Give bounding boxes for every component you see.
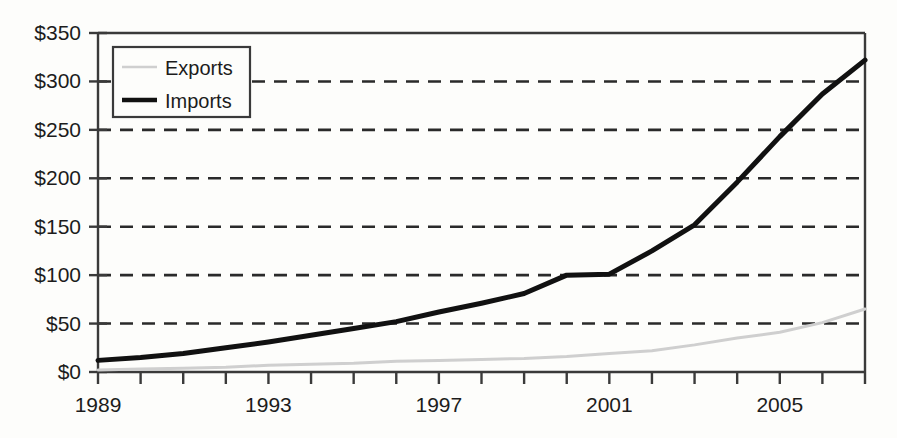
legend-label-exports: Exports — [165, 57, 233, 79]
chart-legend: ExportsImports — [113, 47, 250, 117]
y-axis-tick-label: $300 — [34, 69, 81, 92]
y-axis-tick-label: $350 — [34, 21, 81, 44]
y-axis-tick-label: $150 — [34, 215, 81, 238]
line-chart: $0$50$100$150$200$250$300$350 1989199319… — [0, 0, 897, 438]
y-axis-tick-label: $100 — [34, 263, 81, 286]
chart-container: $0$50$100$150$200$250$300$350 1989199319… — [0, 0, 897, 438]
y-axis-tick-label: $50 — [46, 312, 81, 335]
y-axis-tick-label: $200 — [34, 166, 81, 189]
y-axis-tick-label: $0 — [58, 360, 81, 383]
x-axis-tick-label: 2001 — [586, 393, 633, 416]
x-axis-tick-label: 1989 — [75, 393, 122, 416]
x-axis-tick-label: 1997 — [416, 393, 463, 416]
x-axis-tick-label: 2005 — [756, 393, 803, 416]
x-axis-tick-label: 1993 — [245, 393, 292, 416]
legend-label-imports: Imports — [165, 90, 232, 112]
y-axis-tick-label: $250 — [34, 118, 81, 141]
